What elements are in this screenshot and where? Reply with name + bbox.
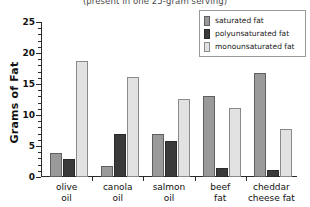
bar-group — [50, 22, 88, 177]
y-tick-minor — [38, 152, 41, 153]
y-tick-minor — [38, 134, 41, 135]
y-tick-major — [36, 53, 41, 54]
bar-poly — [165, 141, 177, 177]
y-tick-label: 15 — [22, 79, 35, 89]
legend-item[interactable]: saturated fat — [204, 14, 301, 27]
y-tick-major — [36, 22, 41, 23]
y-tick-minor — [38, 47, 41, 48]
y-tick-minor — [38, 28, 41, 29]
y-tick-minor — [38, 65, 41, 66]
y-tick-minor — [38, 109, 41, 110]
y-tick-minor — [38, 90, 41, 91]
category-label: cheddarcheese fat — [246, 182, 297, 204]
bar-mono — [127, 77, 139, 177]
legend-label: monounsaturated fat — [215, 42, 295, 51]
y-tick-minor — [38, 96, 41, 97]
legend-swatch-icon — [204, 16, 210, 26]
y-tick-label: 25 — [22, 17, 35, 27]
y-tick-minor — [38, 72, 41, 73]
y-tick-label: 10 — [22, 110, 35, 120]
y-tick-minor — [38, 34, 41, 35]
bar-poly — [267, 170, 279, 177]
y-tick-minor — [38, 171, 41, 172]
category-label-line: beef — [195, 182, 246, 193]
category-label-line: oil — [41, 193, 92, 204]
y-tick-label: 20 — [22, 48, 35, 58]
y-axis-line — [41, 22, 42, 177]
bar-sat — [152, 134, 164, 177]
chart-legend: saturated fatpolyunsaturated fatmonounsa… — [199, 10, 306, 57]
y-tick-major — [36, 115, 41, 116]
legend-swatch-icon — [204, 29, 210, 39]
bar-sat — [203, 96, 215, 177]
bar-sat — [50, 153, 62, 177]
bar-mono — [229, 108, 241, 177]
category-label-line: canola — [92, 182, 143, 193]
legend-item[interactable]: monounsaturated fat — [204, 40, 301, 53]
legend-item[interactable]: polyunsaturated fat — [204, 27, 301, 40]
bar-poly — [216, 168, 228, 177]
legend-swatch-icon — [204, 42, 210, 52]
bar-mono — [178, 99, 190, 177]
bar-sat — [101, 166, 113, 177]
category-label: salmonoil — [143, 182, 194, 204]
category-label: canolaoil — [92, 182, 143, 204]
bar-poly — [63, 159, 75, 177]
y-tick-minor — [38, 121, 41, 122]
y-tick-minor — [38, 165, 41, 166]
category-label-line: cheddar — [246, 182, 297, 193]
y-tick-label: 5 — [29, 141, 35, 151]
category-label: beeffat — [195, 182, 246, 204]
chart-title: (present in one 25-gram serving) — [0, 0, 310, 6]
y-tick-major — [36, 84, 41, 85]
fat-content-bar-chart: (present in one 25-gram serving) Grams o… — [0, 0, 310, 207]
bar-mono — [76, 61, 88, 177]
category-label-line: cheese fat — [246, 193, 297, 204]
y-tick-label: 0 — [29, 172, 35, 182]
y-tick-minor — [38, 103, 41, 104]
category-label-line: salmon — [143, 182, 194, 193]
y-axis-title: Grams of Fat — [8, 48, 21, 158]
category-label: oliveoil — [41, 182, 92, 204]
category-label-line: oil — [92, 193, 143, 204]
bar-group — [101, 22, 139, 177]
bar-sat — [254, 73, 266, 177]
x-tick — [195, 177, 196, 181]
legend-label: saturated fat — [215, 16, 264, 25]
y-tick-minor — [38, 158, 41, 159]
category-label-line: olive — [41, 182, 92, 193]
y-tick-minor — [38, 41, 41, 42]
category-label-line: oil — [143, 193, 194, 204]
bar-group — [152, 22, 190, 177]
y-tick-minor — [38, 78, 41, 79]
y-tick-minor — [38, 140, 41, 141]
y-tick-major — [36, 177, 41, 178]
legend-label: polyunsaturated fat — [215, 29, 289, 38]
x-tick — [92, 177, 93, 181]
x-tick — [143, 177, 144, 181]
bar-mono — [280, 129, 292, 177]
bar-poly — [114, 134, 126, 177]
y-tick-minor — [38, 59, 41, 60]
category-label-line: fat — [195, 193, 246, 204]
y-tick-major — [36, 146, 41, 147]
x-tick — [246, 177, 247, 181]
y-tick-minor — [38, 127, 41, 128]
